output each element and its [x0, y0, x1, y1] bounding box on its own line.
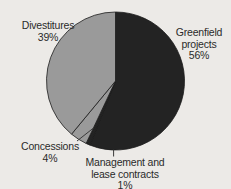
pie-chart-figure: Divestitures 39% Greenfield projects 56%… — [0, 0, 231, 189]
slice-label-management: Management and lease contracts 1% — [69, 157, 181, 189]
slice-label-concessions-name: Concessions — [8, 141, 92, 153]
slice-label-management-name-1: Management and — [69, 157, 181, 169]
slice-label-greenfield-name-1: Greenfield — [168, 27, 230, 39]
slice-label-divestitures: Divestitures 39% — [5, 20, 91, 43]
slice-label-management-value: 1% — [69, 180, 181, 189]
slice-label-greenfield-value: 56% — [168, 50, 230, 62]
slice-label-greenfield: Greenfield projects 56% — [168, 27, 230, 62]
slice-label-divestitures-name: Divestitures — [5, 20, 91, 32]
slice-label-divestitures-value: 39% — [5, 32, 91, 44]
